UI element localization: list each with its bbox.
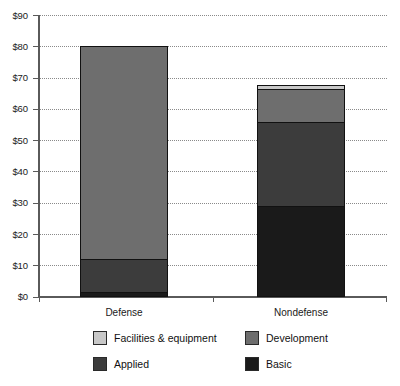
legend-label-applied: Applied — [114, 358, 149, 370]
legend-item-basic[interactable]: Basic — [245, 357, 292, 371]
y-axis-label-20: $20 — [0, 229, 28, 240]
plot-area: $90 $80 $70 $60 $50 $40 $30 $20 $10 $0 — [38, 8, 390, 298]
bar-defense-segment-applied[interactable] — [80, 259, 168, 292]
legend-label-development: Development — [266, 332, 328, 344]
bar-defense-segment-basic[interactable] — [80, 292, 168, 297]
legend-label-basic: Basic — [266, 358, 292, 370]
y-tick-0 — [33, 297, 38, 298]
y-axis-label-0: $0 — [0, 291, 28, 302]
y-tick-60 — [33, 109, 38, 110]
y-tick-10 — [33, 265, 38, 266]
y-tick-80 — [33, 46, 38, 47]
y-axis-label-80: $80 — [0, 41, 28, 52]
stacked-bar-chart: $90 $80 $70 $60 $50 $40 $30 $20 $10 $0 — [0, 0, 400, 386]
y-axis-label-60: $60 — [0, 103, 28, 114]
legend-label-facilities-equipment: Facilities & equipment — [114, 332, 217, 344]
y-tick-20 — [33, 234, 38, 235]
gridline-90 — [39, 15, 387, 16]
legend-swatch-facilities-equipment-icon — [93, 331, 107, 345]
legend-item-development[interactable]: Development — [245, 331, 328, 345]
x-axis-category-nondefense: Nondefense — [274, 307, 328, 318]
y-tick-50 — [33, 140, 38, 141]
y-axis-label-10: $10 — [0, 260, 28, 271]
y-tick-70 — [33, 78, 38, 79]
y-tick-30 — [33, 203, 38, 204]
bar-defense-segment-development[interactable] — [80, 46, 168, 259]
legend-swatch-applied-icon — [93, 357, 107, 371]
bar-nondefense-segment-development[interactable] — [257, 89, 345, 122]
y-axis-label-70: $70 — [0, 72, 28, 83]
y-axis-label-30: $30 — [0, 197, 28, 208]
bar-nondefense-segment-basic[interactable] — [257, 206, 345, 297]
y-axis-label-90: $90 — [0, 10, 28, 21]
legend-swatch-basic-icon — [245, 357, 259, 371]
x-tick-middle — [213, 297, 214, 302]
y-tick-90 — [33, 15, 38, 16]
chart-legend: Facilities & equipment Development Appli… — [93, 331, 363, 379]
legend-swatch-development-icon — [245, 331, 259, 345]
y-tick-40 — [33, 171, 38, 172]
legend-item-applied[interactable]: Applied — [93, 357, 149, 371]
legend-item-facilities-equipment[interactable]: Facilities & equipment — [93, 331, 217, 345]
x-axis-category-defense: Defense — [105, 307, 142, 318]
y-axis-label-40: $40 — [0, 166, 28, 177]
x-tick-left-edge — [39, 297, 40, 302]
bar-nondefense-segment-applied[interactable] — [257, 122, 345, 207]
y-axis-label-50: $50 — [0, 135, 28, 146]
x-tick-right-edge — [386, 297, 387, 302]
y-axis-line — [38, 15, 40, 297]
